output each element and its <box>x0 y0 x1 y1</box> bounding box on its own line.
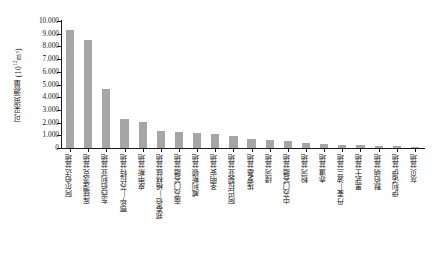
bar <box>320 144 328 148</box>
y-tick-label: 3.000 <box>25 106 59 113</box>
plot-area <box>61 21 424 148</box>
x-tick-mark <box>215 149 216 152</box>
y-tick-label: 10.000 <box>25 17 59 24</box>
y-tick-label: 5.000 <box>25 81 59 88</box>
x-category-label: 皮申斯盆地 <box>139 154 146 190</box>
bar <box>411 147 419 148</box>
x-tick-mark <box>125 149 126 152</box>
bar <box>393 146 401 148</box>
x-category-label: 灰贝盆地 <box>411 154 418 183</box>
x-axis-line <box>60 148 425 149</box>
x-category-label: 东西伯利亚盆地 <box>102 154 109 204</box>
x-tick-mark <box>106 149 107 152</box>
x-category-label: 阿尔伯达盆地 <box>66 154 73 197</box>
bar <box>375 146 383 148</box>
x-category-label: 伊利诺伊盆地 <box>393 154 400 197</box>
y-tick-label: 1.000 <box>25 132 59 139</box>
x-category-label: 威利斯顿盆地 <box>193 154 200 197</box>
bar-chart-figure: 可采资源量 (1012m³) 10.0009.0008.0007.0006.00… <box>0 0 433 260</box>
y-tick-label: 8.000 <box>25 43 59 50</box>
x-tick-mark <box>360 149 361 152</box>
x-category-label: 黑武士盆地 <box>356 154 363 190</box>
x-tick-mark <box>197 149 198 152</box>
x-tick-mark <box>270 149 271 152</box>
x-tick-mark <box>379 149 380 152</box>
x-tick-mark <box>179 149 180 152</box>
x-category-label: 埃罗基盆地 <box>248 154 255 190</box>
bar <box>356 145 364 148</box>
y-axis-title-text: 可采资源量 (1012m³) <box>13 48 23 122</box>
bar <box>139 122 147 148</box>
x-tick-mark <box>415 149 416 152</box>
y-tick-mark <box>57 148 61 149</box>
x-tick-mark <box>70 149 71 152</box>
x-tick-mark <box>161 149 162 152</box>
y-tick-label: 4.000 <box>25 94 59 101</box>
bar <box>266 140 274 148</box>
x-category-label: 默伯纳盆地 <box>375 154 382 190</box>
x-category-label: 郑泰伯—格林兹盆地 <box>157 154 164 219</box>
bar <box>175 132 183 148</box>
x-category-label: 阿巴拉契亚盆地 <box>229 154 236 204</box>
x-tick-mark <box>324 149 325 152</box>
x-tick-mark <box>397 149 398 152</box>
x-category-label: 中苏门答腊盆地 <box>284 154 291 204</box>
bar <box>120 119 128 148</box>
x-category-label: 赤道盆地 <box>320 154 327 183</box>
bar <box>247 139 255 148</box>
y-tick-label: 7.000 <box>25 55 59 62</box>
bar <box>229 136 237 148</box>
x-category-label: 粉河盆地 <box>302 154 309 183</box>
x-tick-mark <box>306 149 307 152</box>
bar <box>193 133 201 148</box>
y-tick-label: 0 <box>25 144 59 151</box>
x-tick-mark <box>288 149 289 152</box>
x-tick-mark <box>252 149 253 152</box>
bar <box>284 141 292 148</box>
x-tick-mark <box>342 149 343 152</box>
bar <box>157 131 165 148</box>
bar <box>211 134 219 148</box>
y-tick-label: 6.000 <box>25 68 59 75</box>
bar <box>302 143 310 148</box>
x-tick-mark <box>233 149 234 152</box>
x-category-label: 丹麦—波兰盆地 <box>338 154 345 205</box>
x-category-label: 绿河盆地 <box>266 154 273 183</box>
bar <box>102 89 110 148</box>
bar <box>338 145 346 148</box>
x-category-label: 库兹涅茨克盆地 <box>84 154 91 204</box>
bar <box>66 30 74 148</box>
x-tick-mark <box>88 149 89 152</box>
x-category-label: 圣明安盆地 <box>211 154 218 190</box>
y-tick-label: 2.000 <box>25 119 59 126</box>
x-tick-mark <box>143 149 144 152</box>
x-category-label: 鄂毕—苏拉特盆地 <box>121 154 128 212</box>
bar <box>84 40 92 148</box>
y-tick-label: 9.000 <box>25 30 59 37</box>
x-category-label: 南苏门答腊盆地 <box>175 154 182 204</box>
